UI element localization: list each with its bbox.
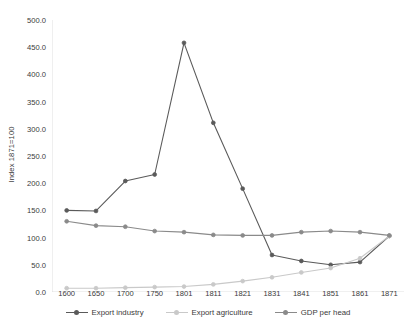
data-point: [387, 234, 391, 238]
x-axis-tick-label: 1851: [322, 289, 339, 298]
line-circle-marker-icon: [66, 309, 88, 317]
data-point: [270, 275, 274, 279]
legend-label: Export agriculture: [192, 308, 253, 317]
data-point: [241, 187, 245, 191]
line-circle-marker-icon: [275, 309, 297, 317]
x-axis-tick-label: 1650: [88, 289, 105, 298]
data-point: [358, 230, 362, 234]
x-axis-tick-label: 1831: [264, 289, 281, 298]
legend-item[interactable]: Export industry: [66, 308, 144, 317]
series-gdp-per-head: [65, 219, 391, 237]
data-point: [65, 209, 69, 213]
data-point: [270, 253, 274, 257]
x-axis-tick-labels: 1600165017001750180118111821183118411851…: [52, 289, 404, 305]
data-point: [358, 256, 362, 260]
data-point: [299, 230, 303, 234]
plot-area: [52, 20, 404, 292]
legend-item[interactable]: Export agriculture: [166, 308, 253, 317]
data-point: [299, 271, 303, 275]
series-export-agriculture: [65, 234, 391, 290]
plot-svg: [52, 20, 404, 292]
data-point: [94, 209, 98, 213]
data-point: [299, 259, 303, 263]
data-point: [241, 234, 245, 238]
y-axis-tick-label: 250.0: [2, 152, 46, 161]
data-point: [211, 121, 215, 125]
data-point: [94, 224, 98, 228]
data-point: [211, 233, 215, 237]
x-axis-tick-label: 1861: [352, 289, 369, 298]
x-axis-tick-label: 1811: [205, 289, 221, 298]
data-point: [211, 282, 215, 286]
legend-label: GDP per head: [301, 308, 351, 317]
x-axis-tick-label: 1841: [293, 289, 310, 298]
data-point: [153, 229, 157, 233]
data-point: [329, 229, 333, 233]
y-axis-tick-label: 450.0: [2, 43, 46, 52]
x-axis-tick-label: 1750: [146, 289, 163, 298]
data-point: [270, 234, 274, 238]
x-axis-tick-label: 1600: [58, 289, 75, 298]
series-export-industry: [65, 41, 391, 267]
data-point: [153, 173, 157, 177]
y-axis-tick-label: 100.0: [2, 233, 46, 242]
y-axis-tick-labels: 0.050.0100.0150.0200.0250.0300.0350.0400…: [0, 0, 46, 331]
y-axis-tick-label: 150.0: [2, 206, 46, 215]
x-axis-tick-label: 1700: [117, 289, 134, 298]
x-axis-tick-label: 1801: [176, 289, 193, 298]
legend-label: Export industry: [92, 308, 144, 317]
data-point: [182, 41, 186, 45]
y-axis-tick-label: 350.0: [2, 97, 46, 106]
line-chart: Index 1871=100 0.050.0100.0150.0200.0250…: [0, 0, 416, 331]
x-axis-tick-label: 1821: [234, 289, 251, 298]
data-point: [65, 219, 69, 223]
data-point: [329, 266, 333, 270]
y-axis-tick-label: 300.0: [2, 124, 46, 133]
legend-item[interactable]: GDP per head: [275, 308, 351, 317]
y-axis-tick-label: 0.0: [2, 288, 46, 297]
y-axis-tick-label: 400.0: [2, 70, 46, 79]
data-point: [358, 260, 362, 264]
chart-legend: Export industryExport agricultureGDP per…: [0, 308, 416, 317]
data-point: [182, 230, 186, 234]
data-point: [123, 225, 127, 229]
data-point: [182, 285, 186, 289]
line-dot-marker-icon: [166, 309, 188, 317]
data-point: [241, 279, 245, 283]
y-axis-tick-label: 200.0: [2, 179, 46, 188]
x-axis-tick-label: 1871: [381, 289, 398, 298]
y-axis-tick-label: 50.0: [2, 260, 46, 269]
data-point: [123, 179, 127, 183]
y-axis-tick-label: 500.0: [2, 16, 46, 25]
